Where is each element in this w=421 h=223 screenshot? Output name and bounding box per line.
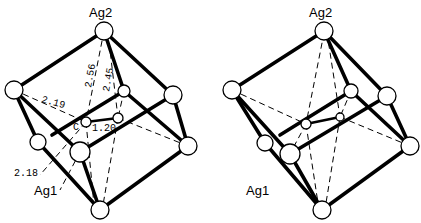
atom-ag-right-low (401, 137, 419, 155)
atom-ag-left (5, 81, 23, 99)
atom-ag-lower-left (257, 135, 273, 151)
atom-ag2 (315, 22, 333, 40)
atom-ag2 (95, 22, 113, 40)
atom-carbon-1 (81, 117, 91, 127)
distance-2-18: 2.18 (14, 168, 38, 179)
atom-ag-right-low (179, 137, 197, 155)
distance-2-45: 2.45 (101, 67, 116, 93)
atom-ag1 (70, 142, 90, 162)
atom-ag-right (164, 86, 182, 104)
atom-ag-bottom (313, 201, 331, 219)
label-ag2: Ag2 (89, 5, 112, 20)
atom-ag-back (118, 85, 130, 97)
distance-2-19: 2.19 (40, 94, 66, 111)
label-ag2: Ag2 (309, 5, 332, 20)
atom-carbon-2 (336, 113, 344, 121)
atom-carbon-2 (113, 113, 123, 123)
atom-ag-right (378, 87, 396, 105)
structure-diagram: Ag2 Ag1 C 2.56 2.45 2.19 1.20 2.18 (0, 0, 421, 223)
label-ag1: Ag1 (246, 183, 269, 198)
atom-ag-bottom (91, 201, 109, 219)
label-carbon: C (73, 122, 79, 133)
right-structure: Ag2 Ag1 (223, 5, 419, 219)
atom-ag-lower-left (30, 134, 46, 150)
atom-ag-left (223, 81, 241, 99)
atom-carbon-1 (301, 119, 311, 129)
label-ag1: Ag1 (34, 183, 57, 198)
distance-2-56: 2.56 (83, 63, 98, 89)
atom-ag1 (280, 144, 300, 164)
distance-1-20: 1.20 (92, 123, 116, 134)
left-structure: Ag2 Ag1 C 2.56 2.45 2.19 1.20 2.18 (5, 5, 197, 219)
atom-ag-back (344, 84, 358, 98)
